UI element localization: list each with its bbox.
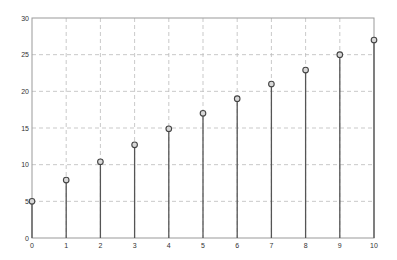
x-tick-label: 8 [304, 242, 308, 249]
x-axis-ticks: 012345678910 [30, 242, 378, 249]
stem-marker [234, 96, 240, 102]
x-tick-label: 3 [133, 242, 137, 249]
y-axis-ticks: 051015202530 [21, 15, 29, 242]
stem-chart: 012345678910 051015202530 [0, 0, 397, 260]
x-tick-label: 9 [338, 242, 342, 249]
stem-marker [29, 199, 35, 205]
x-tick-label: 10 [370, 242, 378, 249]
x-tick-label: 6 [235, 242, 239, 249]
stem-marker [303, 67, 309, 73]
stem-marker [200, 111, 206, 117]
x-tick-label: 7 [269, 242, 273, 249]
stem-marker [371, 37, 377, 43]
y-tick-label: 30 [21, 15, 29, 22]
y-tick-label: 15 [21, 125, 29, 132]
x-tick-label: 4 [167, 242, 171, 249]
x-tick-label: 5 [201, 242, 205, 249]
stem-marker [132, 142, 138, 148]
x-tick-label: 2 [98, 242, 102, 249]
y-tick-label: 5 [25, 198, 29, 205]
y-tick-label: 25 [21, 51, 29, 58]
y-tick-label: 0 [25, 235, 29, 242]
stem-marker [337, 52, 343, 58]
stem-marker [63, 177, 69, 183]
stem-marker [166, 126, 172, 132]
stem-marker [98, 159, 104, 165]
y-tick-label: 10 [21, 161, 29, 168]
stem-marker [269, 81, 275, 87]
x-tick-label: 0 [30, 242, 34, 249]
x-tick-label: 1 [64, 242, 68, 249]
y-tick-label: 20 [21, 88, 29, 95]
